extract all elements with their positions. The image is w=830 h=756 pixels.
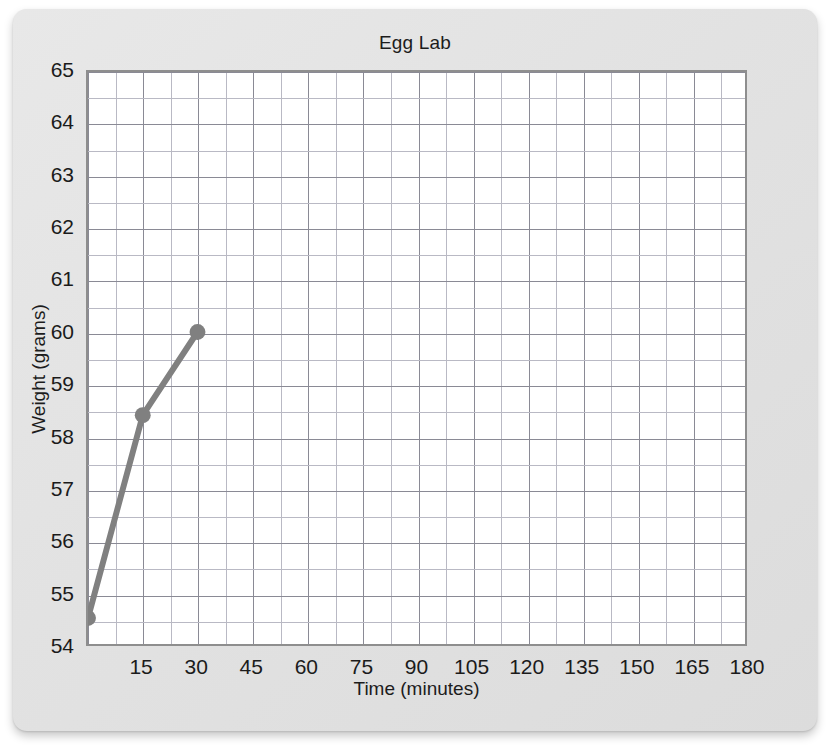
data-point-marker: [88, 610, 96, 626]
data-series-layer: [88, 72, 745, 644]
y-axis-tick-label: 56: [14, 529, 74, 553]
x-axis-tick-label: 180: [712, 655, 782, 679]
plot-area: [86, 70, 747, 646]
y-axis-tick-label: 55: [14, 582, 74, 606]
y-axis-tick-label: 65: [14, 58, 74, 82]
y-axis-tick-label: 64: [14, 110, 74, 134]
chart-title: Egg Lab: [0, 32, 830, 54]
y-axis-tick-label: 63: [14, 163, 74, 187]
y-axis-title: Weight (grams): [28, 219, 50, 519]
data-point-marker: [135, 407, 151, 423]
x-axis-title: Time (minutes): [86, 678, 747, 700]
y-axis-tick-label: 54: [14, 634, 74, 658]
chart-screenshot: Egg Lab 545556575859606162636465 1530456…: [0, 0, 830, 756]
data-point-marker: [190, 324, 206, 340]
series-line: [88, 332, 198, 618]
